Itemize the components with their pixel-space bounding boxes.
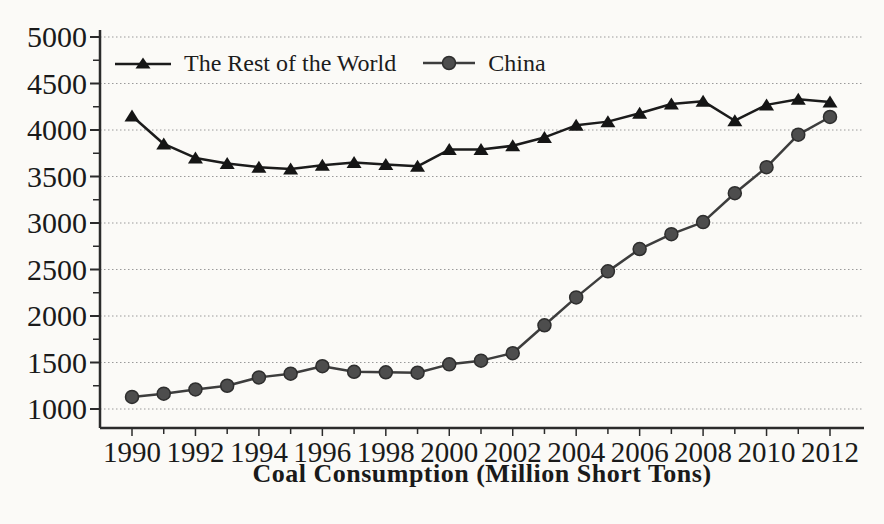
y-axis-labels: 100015002000250030003500400045005000 [27,20,87,425]
svg-text:4500: 4500 [27,67,87,100]
series-the-rest-of-the-world [125,93,838,175]
y-axis-ticks [90,37,100,409]
svg-text:1500: 1500 [27,346,87,379]
svg-text:5000: 5000 [27,20,87,53]
svg-text:3500: 3500 [27,160,87,193]
coal-consumption-chart: 1000150020002500300035004000450050001990… [0,0,884,524]
svg-text:3000: 3000 [27,206,87,239]
svg-text:2500: 2500 [27,253,87,286]
x-axis-title: Coal Consumption (Million Short Tons) [100,459,864,489]
svg-text:4000: 4000 [27,113,87,146]
axes [100,30,864,428]
plot-area: 1000150020002500300035004000450050001990… [0,0,884,524]
gridlines [100,37,864,409]
svg-text:1000: 1000 [27,392,87,425]
svg-text:2000: 2000 [27,299,87,332]
